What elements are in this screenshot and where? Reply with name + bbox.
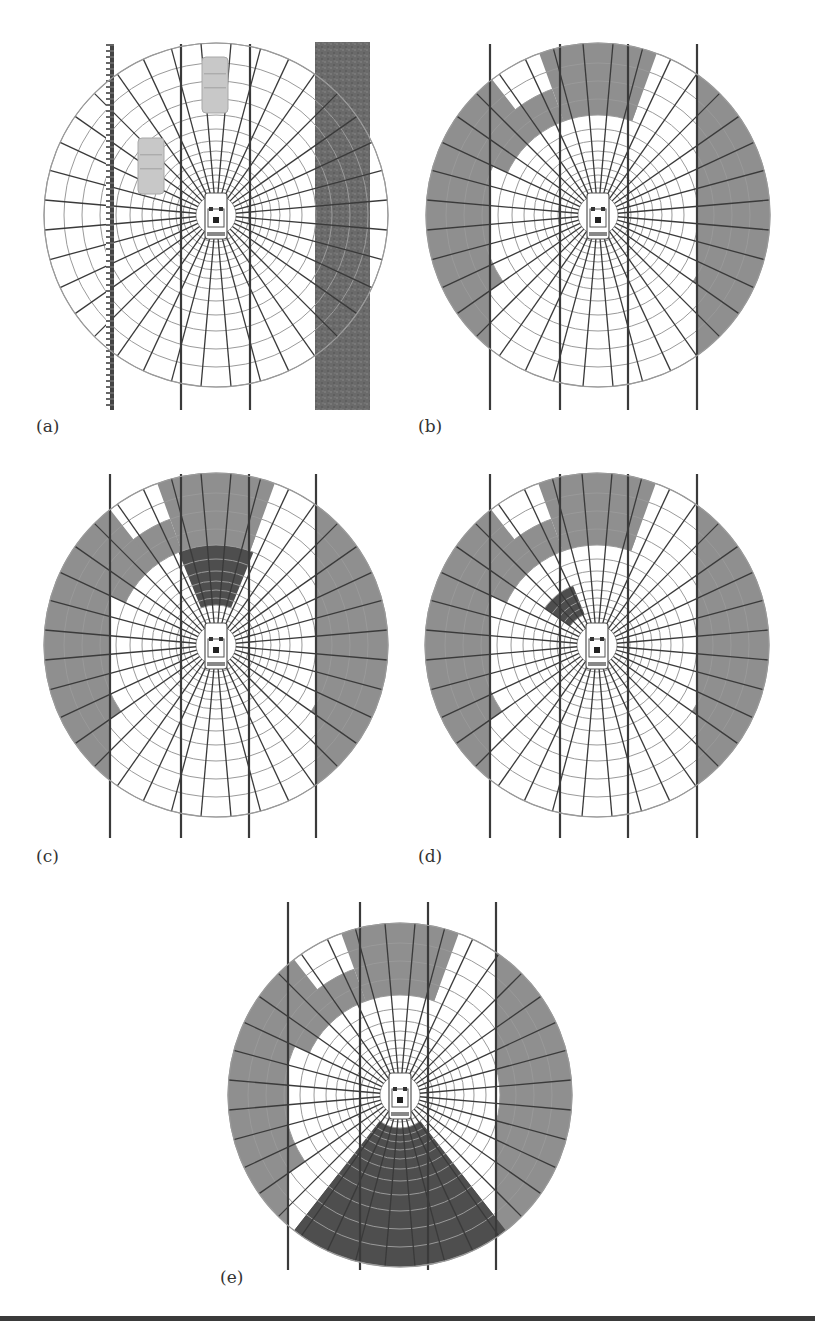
parked-car-icon <box>202 57 228 113</box>
panel-label-c: (c) <box>36 846 59 866</box>
panel-b <box>426 43 770 410</box>
panel-e <box>228 902 572 1270</box>
panel-c <box>44 473 388 838</box>
panel-a <box>44 42 388 410</box>
guardrail <box>106 44 114 410</box>
panel-label-a: (a) <box>36 416 59 436</box>
panel-label-b: (b) <box>418 416 442 436</box>
ego-vehicle-icon <box>389 1073 411 1119</box>
panel-label-d: (d) <box>418 846 442 866</box>
ego-vehicle-icon <box>587 193 609 239</box>
ego-vehicle-icon <box>205 193 227 239</box>
panels-layer <box>44 42 770 1270</box>
panel-label-e: (e) <box>220 1267 243 1287</box>
parked-car-icon <box>138 138 164 194</box>
ego-vehicle-icon <box>205 623 227 669</box>
ego-vehicle-icon <box>586 623 608 669</box>
occupancy-grid-figure <box>0 0 815 1336</box>
panel-d <box>425 473 769 838</box>
bottom-rule <box>0 1316 815 1321</box>
